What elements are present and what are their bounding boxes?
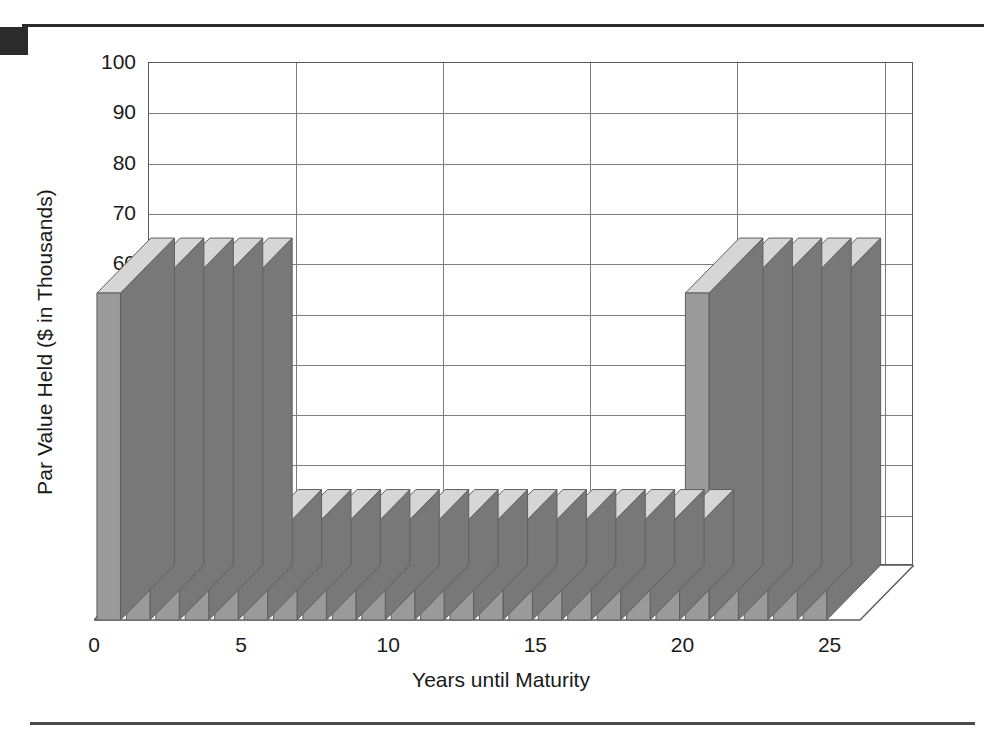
y-tick-label: 30 (72, 403, 136, 424)
y-gridline (149, 164, 912, 165)
y-gridline (149, 315, 912, 316)
y-gridline (149, 365, 912, 366)
y-tick-label: 80 (72, 152, 136, 173)
x-gridline (885, 63, 886, 564)
x-tick-label: 0 (64, 634, 124, 655)
y-gridline (149, 214, 912, 215)
plot-area-back-wall (148, 62, 913, 565)
plot-floor-3d (94, 565, 914, 620)
x-gridline (590, 63, 591, 564)
x-gridline (737, 63, 738, 564)
y-tick-label: 20 (72, 453, 136, 474)
x-tick-label: 5 (211, 634, 271, 655)
x-tick-label: 25 (800, 634, 860, 655)
y-tick-label: 50 (72, 303, 136, 324)
x-tick-label: 15 (505, 634, 565, 655)
x-axis-title: Years until Maturity (0, 668, 1002, 692)
y-tick-label: 40 (72, 353, 136, 374)
x-tick-label: 20 (652, 634, 712, 655)
y-gridline (149, 113, 912, 114)
bar-chart-figure: Par Value Held ($ in Thousands) 10090807… (0, 0, 1002, 737)
top-horizontal-rule (22, 24, 984, 27)
x-gridline (443, 63, 444, 564)
y-tick-label: 70 (72, 202, 136, 223)
y-tick-label: 60 (72, 252, 136, 273)
y-tick-label: 0 (72, 554, 136, 575)
x-tick-label: 10 (358, 634, 418, 655)
x-gridline (296, 63, 297, 564)
y-tick-label: 10 (72, 504, 136, 525)
bottom-horizontal-rule (30, 722, 975, 725)
y-tick-label: 100 (72, 51, 136, 72)
y-gridline (149, 415, 912, 416)
y-gridline (149, 264, 912, 265)
y-tick-label: 90 (72, 101, 136, 122)
black-corner-square (0, 27, 28, 55)
y-gridline (149, 465, 912, 466)
y-gridline (149, 516, 912, 517)
y-axis-title: Par Value Held ($ in Thousands) (33, 82, 57, 602)
